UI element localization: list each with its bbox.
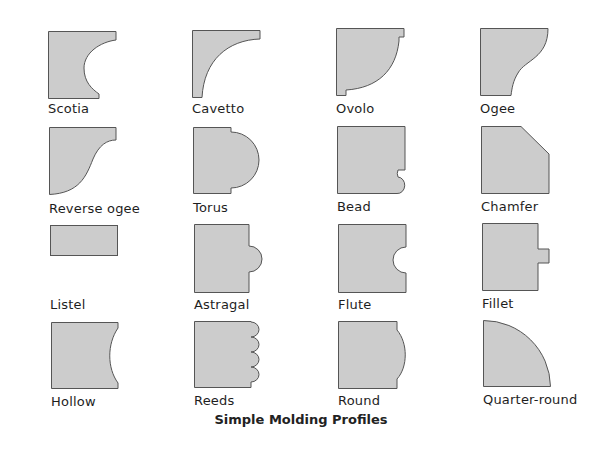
profile-label: Flute [338, 297, 371, 312]
cavetto-shape-icon [192, 30, 262, 100]
profile-chamfer: Chamfer [481, 126, 602, 226]
profile-label: Reverse ogee [49, 201, 140, 216]
profile-ogee: Ogee [480, 28, 602, 128]
profile-label: Ovolo [336, 101, 374, 116]
profile-label: Quarter-round [483, 392, 577, 407]
flute-shape-icon [338, 224, 408, 296]
listel-shape-icon [50, 225, 120, 260]
profile-hollow: Hollow [51, 322, 181, 422]
figure-caption: Simple Molding Profiles [0, 412, 602, 427]
reverse-ogee-shape-icon [49, 127, 119, 197]
round-shape-icon [338, 321, 410, 391]
profile-cavetto: Cavetto [192, 30, 322, 130]
profile-scotia: Scotia [48, 31, 178, 131]
profile-astragal: Astragal [194, 224, 324, 324]
profile-label: Bead [337, 199, 371, 214]
profile-bead: Bead [337, 126, 467, 226]
profile-torus: Torus [193, 127, 323, 227]
ovolo-shape-icon [336, 28, 406, 98]
profile-quarter-round: Quarter-round [483, 320, 602, 420]
reeds-shape-icon [194, 321, 266, 391]
profile-label: Torus [193, 200, 228, 215]
bead-shape-icon [337, 126, 407, 196]
astragal-shape-icon [194, 224, 266, 296]
fillet-shape-icon [482, 223, 552, 295]
ogee-shape-icon [480, 28, 550, 98]
profile-label: Round [338, 393, 380, 408]
profile-label: Chamfer [481, 199, 538, 214]
quarter-round-shape-icon [483, 320, 555, 390]
profile-reverse-ogee: Reverse ogee [49, 127, 179, 227]
profile-round: Round [338, 321, 468, 421]
profile-label: Cavetto [192, 101, 244, 116]
profile-label: Scotia [48, 101, 89, 116]
chamfer-shape-icon [481, 126, 551, 196]
profile-listel: Listel [50, 225, 180, 325]
profile-label: Reeds [194, 393, 234, 408]
hollow-shape-icon [51, 322, 121, 392]
profile-label: Listel [50, 297, 86, 312]
profile-label: Astragal [194, 297, 250, 312]
scotia-shape-icon [48, 31, 118, 101]
profile-label: Hollow [51, 394, 96, 409]
profile-ovolo: Ovolo [336, 28, 466, 128]
profile-reeds: Reeds [194, 321, 324, 421]
profile-label: Fillet [482, 296, 514, 311]
torus-shape-icon [193, 127, 265, 197]
profile-flute: Flute [338, 224, 468, 324]
profile-label: Ogee [480, 101, 515, 116]
profile-fillet: Fillet [482, 223, 602, 323]
